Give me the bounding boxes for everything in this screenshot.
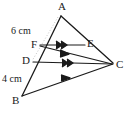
vertex-label-A: A — [58, 1, 66, 12]
geometry-figure: A B C D E F 6 cm 4 cm — [0, 0, 131, 114]
measurement-label-4cm: 4 cm — [2, 74, 22, 84]
segment-FC — [40, 46, 112, 64]
vertex-label-C: C — [116, 59, 123, 70]
vertex-label-F: F — [31, 39, 37, 50]
segment-DC — [33, 59, 112, 67]
vertex-label-D: D — [22, 55, 30, 66]
vertex-label-E: E — [87, 38, 94, 49]
figure-canvas — [0, 0, 131, 114]
measurement-label-6cm: 6 cm — [11, 26, 31, 36]
vertex-label-B: B — [12, 95, 19, 106]
